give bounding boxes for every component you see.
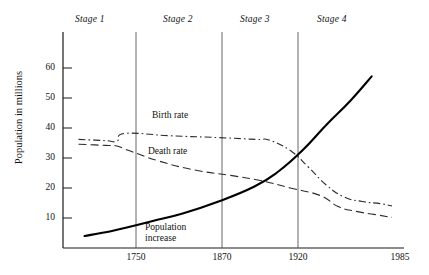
series-line-death-rate [79, 144, 392, 217]
series-line-population-increase [85, 76, 372, 236]
plot-area [0, 0, 429, 275]
demographic-transition-chart: Population in millions Stage 1 Stage 2 S… [0, 0, 429, 275]
